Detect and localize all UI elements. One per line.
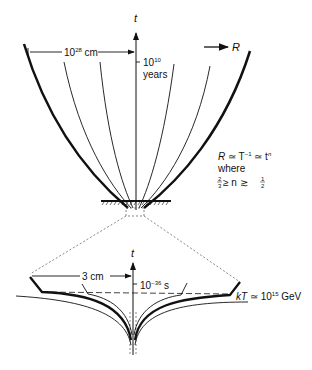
svg-text:2: 2	[261, 183, 265, 189]
lower-time-label: 10−36 s	[140, 280, 169, 291]
outer-thin-curve-left	[16, 296, 131, 345]
outer-thin-curve-right	[135, 302, 248, 345]
formula-line-3: 2 3 ≥ n ≳ 1 2	[217, 176, 265, 189]
r-label: R	[232, 41, 240, 53]
svg-text:≥ n ≳: ≥ n ≳	[223, 177, 248, 188]
upper-time-unit: years	[143, 69, 167, 80]
worldline	[141, 66, 210, 208]
thick-curve-left	[30, 277, 131, 340]
svg-text:2: 2	[218, 176, 222, 182]
temperature-label: kT ≃ 1015 GeV	[236, 291, 302, 302]
outer-horizon-curve-left	[24, 44, 128, 208]
worldline	[64, 62, 131, 208]
lower-width-label: 3 cm	[82, 271, 104, 282]
lower-t-label: t	[131, 247, 135, 259]
zoom-connector	[30, 208, 240, 282]
upper-width-label: 1028 cm	[64, 47, 98, 58]
lower-inflation-diagram: t 3 cm 10−36 s kT ≃ 1015 GeV	[16, 247, 302, 355]
upper-time-label: 1010	[143, 57, 161, 68]
upper-expansion-diagram: t 1028 cm 1010	[24, 12, 250, 210]
formula-line-2: where	[217, 163, 246, 174]
svg-text:3: 3	[218, 183, 222, 189]
inner-thin-curve-left	[82, 284, 132, 335]
svg-text:1: 1	[261, 176, 265, 182]
upper-t-label: t	[134, 12, 138, 24]
inflationary-universe-diagram: t 1028 cm 1010	[0, 0, 312, 370]
hatching	[102, 202, 168, 205]
scaling-formula: R ≃ T−1 ≃ tn where 2 3 ≥ n ≳ 1 2	[217, 151, 272, 189]
formula-line-1: R ≃ T−1 ≃ tn	[218, 151, 272, 162]
